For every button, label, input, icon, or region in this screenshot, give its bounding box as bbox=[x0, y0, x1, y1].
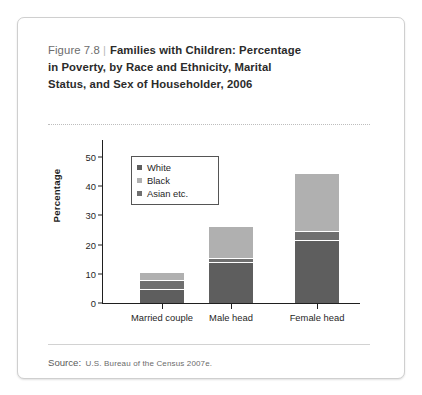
bar-married-couple bbox=[140, 272, 184, 303]
legend-swatch-icon bbox=[137, 191, 142, 196]
legend-swatch-icon bbox=[137, 165, 142, 170]
bar-segment-black bbox=[209, 226, 253, 258]
bar-segment-asian-etc- bbox=[209, 258, 253, 262]
chart-legend: WhiteBlackAsian etc. bbox=[131, 156, 219, 205]
source-note: Source: U.S. Bureau of the Census 2007e. bbox=[48, 352, 212, 370]
bar-segment-asian-etc- bbox=[140, 280, 184, 289]
y-axis-tick-40: 40 bbox=[74, 181, 96, 192]
legend-item-asian-etc-: Asian etc. bbox=[137, 187, 212, 200]
y-axis-tick-mark bbox=[98, 244, 102, 245]
bar-segment-white bbox=[140, 289, 184, 303]
x-axis-label-female-head: Female head bbox=[269, 312, 365, 323]
bar-male-head bbox=[209, 226, 253, 303]
bar-segment-black bbox=[140, 272, 184, 279]
bar-segment-white bbox=[209, 262, 253, 303]
y-axis-label: Percentage bbox=[51, 156, 62, 236]
x-axis-tick-mark bbox=[162, 304, 163, 309]
bar-segment-black bbox=[295, 173, 339, 231]
x-axis-tick-mark bbox=[231, 304, 232, 309]
y-axis-tick-20: 20 bbox=[74, 239, 96, 250]
legend-item-white: White bbox=[137, 161, 212, 174]
y-axis-tick-10: 10 bbox=[74, 268, 96, 279]
source-text: U.S. Bureau of the Census 2007e. bbox=[86, 359, 213, 368]
bar-female-head bbox=[295, 173, 339, 303]
source-label: Source: bbox=[48, 357, 81, 368]
y-axis-tick-50: 50 bbox=[74, 152, 96, 163]
legend-label: White bbox=[147, 161, 171, 174]
y-axis-tick-mark bbox=[98, 157, 102, 158]
legend-label: Black bbox=[147, 174, 170, 187]
y-axis-tick-mark bbox=[98, 186, 102, 187]
legend-item-black: Black bbox=[137, 174, 212, 187]
legend-swatch-icon bbox=[137, 178, 142, 183]
y-axis-line bbox=[102, 140, 103, 304]
y-axis-tick-mark bbox=[98, 215, 102, 216]
y-axis-tick-mark bbox=[98, 303, 102, 304]
x-axis-tick-mark bbox=[317, 304, 318, 309]
y-axis-tick-30: 30 bbox=[74, 210, 96, 221]
figure-card: Figure 7.8|Families with Children: Perce… bbox=[17, 17, 405, 379]
bar-segment-asian-etc- bbox=[295, 231, 339, 240]
bar-segment-white bbox=[295, 240, 339, 303]
source-divider bbox=[48, 344, 370, 345]
x-axis-label-male-head: Male head bbox=[183, 312, 279, 323]
y-axis-tick-labels: 01020304050 bbox=[74, 18, 96, 379]
legend-label: Asian etc. bbox=[147, 187, 188, 200]
chart-plot-area: Percentage 01020304050 WhiteBlackAsian e… bbox=[18, 18, 405, 379]
y-axis-tick-mark bbox=[98, 273, 102, 274]
y-axis-tick-0: 0 bbox=[74, 298, 96, 309]
